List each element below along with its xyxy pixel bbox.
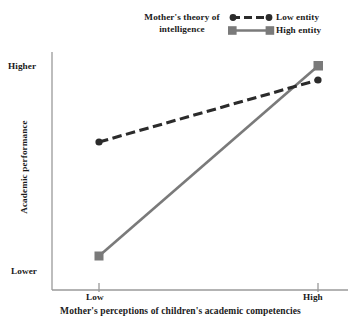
y-tick-label-higher: Higher <box>8 61 36 71</box>
series-marker-low-entity-high <box>314 76 321 83</box>
series-marker-high-entity-low <box>95 252 104 261</box>
y-tick-label-lower: Lower <box>11 266 37 276</box>
legend-swatch-high-entity-marker-start <box>228 26 237 35</box>
chart-figure: Mother's theory of intelligence Low enti… <box>0 0 361 322</box>
legend-label-high-entity: High entity <box>276 25 321 35</box>
legend-label-low-entity: Low entity <box>276 12 319 22</box>
legend-title-line-2: intelligence <box>138 24 226 36</box>
x-tick-label-low: Low <box>86 292 104 302</box>
series-marker-low-entity-low <box>95 138 102 145</box>
series-line-low-entity <box>99 80 318 142</box>
legend-title: Mother's theory of intelligence <box>138 12 226 35</box>
chart-svg <box>0 0 361 322</box>
legend-swatch-low-entity-marker-start <box>230 14 237 21</box>
x-tick-label-high: High <box>303 292 323 302</box>
x-axis-title: Mother's perceptions of children's acade… <box>0 306 361 316</box>
y-axis-title: Academic performance <box>19 107 29 227</box>
legend-swatch-high-entity-marker-end <box>266 26 275 35</box>
series-line-high-entity <box>99 66 318 256</box>
series-marker-high-entity-high <box>314 61 324 71</box>
legend-title-line-1: Mother's theory of <box>138 12 226 24</box>
legend-swatch-low-entity-marker-end <box>266 14 273 21</box>
